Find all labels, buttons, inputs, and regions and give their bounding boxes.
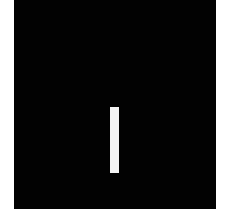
image-canvas [0, 0, 227, 223]
black-square [14, 0, 216, 209]
white-vertical-bar [110, 107, 119, 173]
